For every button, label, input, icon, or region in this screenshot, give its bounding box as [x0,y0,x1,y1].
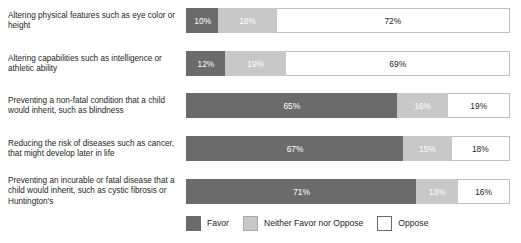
chart-row: Altering capabilities such as intelligen… [0,51,521,76]
segment-neither: 13% [416,179,458,204]
legend-swatch-oppose [377,216,392,231]
segment-favor: 67% [186,136,403,161]
row-label: Altering capabilities such as intelligen… [8,53,180,74]
row-label: Preventing an incurable or fatal disease… [8,176,180,208]
row-label: Altering physical features such as eye c… [8,10,180,31]
legend-item-oppose: Oppose [377,216,428,231]
legend-item-favor: Favor [186,216,229,231]
segment-neither: 15% [403,136,452,161]
row-label: Preventing a non-fatal condition that a … [8,95,180,116]
legend-swatch-favor [186,216,201,231]
stacked-bar: 65% 16% 19% [186,93,510,118]
segment-oppose: 18% [452,136,510,161]
legend-label-favor: Favor [207,218,229,228]
legend-label-oppose: Oppose [398,218,428,228]
segment-oppose: 69% [286,51,510,76]
segment-oppose: 72% [277,8,510,33]
stacked-bar: 67% 15% 18% [186,136,510,161]
segment-favor: 71% [186,179,416,204]
stacked-bar: 12% 19% 69% [186,51,510,76]
chart-legend: Favor Neither Favor nor Oppose Oppose [186,214,516,232]
legend-swatch-neither [243,216,258,231]
stacked-bar-chart: Altering physical features such as eye c… [0,0,521,243]
segment-neither: 18% [218,8,276,33]
segment-oppose: 19% [448,93,510,118]
legend-item-neither: Neither Favor nor Oppose [243,216,363,231]
row-label: Reducing the risk of diseases such as ca… [8,138,180,159]
chart-row: Reducing the risk of diseases such as ca… [0,136,521,161]
chart-row: Preventing a non-fatal condition that a … [0,93,521,118]
segment-oppose: 16% [458,179,510,204]
segment-favor: 12% [186,51,225,76]
stacked-bar: 71% 13% 16% [186,179,510,204]
segment-neither: 19% [225,51,287,76]
stacked-bar: 10% 18% 72% [186,8,510,33]
chart-row: Preventing an incurable or fatal disease… [0,179,521,204]
chart-row: Altering physical features such as eye c… [0,8,521,33]
legend-label-neither: Neither Favor nor Oppose [264,218,363,228]
segment-favor: 65% [186,93,397,118]
segment-favor: 10% [186,8,218,33]
segment-neither: 16% [397,93,449,118]
